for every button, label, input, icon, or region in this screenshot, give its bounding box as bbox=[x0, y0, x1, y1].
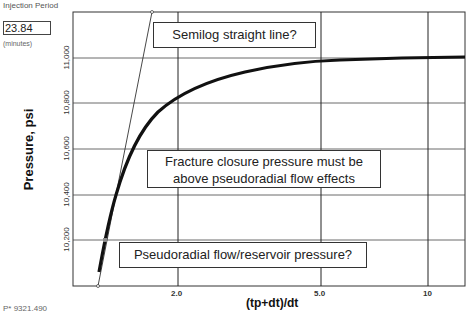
annotation-fracture-closure: Fracture closure pressure must be above … bbox=[147, 150, 381, 188]
data-marker bbox=[103, 238, 107, 242]
annotation-semilog: Semilog straight line? bbox=[153, 22, 316, 48]
x-tick-10: 10 bbox=[423, 289, 432, 298]
x-tick-5: 5.0 bbox=[314, 289, 325, 298]
x-tick-2: 2.0 bbox=[171, 289, 182, 298]
x-axis-label: (tp+dt)/dt bbox=[246, 296, 298, 310]
annotation-pseudoradial: Pseudoradial flow/reservoir pressure? bbox=[119, 242, 367, 268]
p-star-value: P* 9321.490 bbox=[3, 304, 47, 313]
